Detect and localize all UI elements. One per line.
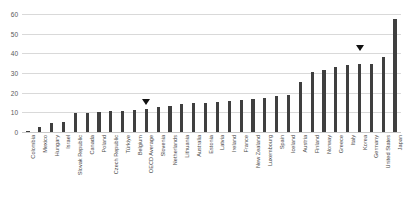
bar-slot	[200, 14, 212, 132]
bar-slot	[377, 14, 389, 132]
bar	[192, 103, 195, 132]
bar	[346, 65, 349, 132]
bar-slot	[354, 14, 366, 132]
bar	[275, 96, 278, 132]
bar-slot	[69, 14, 81, 132]
y-axis-tick-label: 30	[11, 70, 18, 77]
bar-series	[22, 14, 401, 132]
bar	[334, 67, 337, 132]
bar-slot	[117, 14, 129, 132]
bar-slot	[365, 14, 377, 132]
bar	[311, 72, 314, 132]
bar	[62, 122, 65, 132]
gridline-0: 0	[22, 132, 401, 133]
bar-slot	[58, 14, 70, 132]
bar	[157, 107, 160, 132]
x-axis-label-slot: Mexico	[34, 134, 46, 196]
y-axis-tick-label: 20	[11, 89, 18, 96]
x-axis-label-slot: OECD Average	[140, 134, 152, 196]
x-axis-label-slot: Canada	[81, 134, 93, 196]
bar-slot	[247, 14, 259, 132]
bar-slot	[212, 14, 224, 132]
x-axis-label-slot: Iceland	[283, 134, 295, 196]
bar-slot	[129, 14, 141, 132]
x-axis-label-slot: Lithuania	[176, 134, 188, 196]
bar	[370, 64, 373, 132]
x-axis-label-slot: Finland	[306, 134, 318, 196]
bar	[50, 123, 53, 132]
x-axis-label-slot: Luxembourg	[259, 134, 271, 196]
bar	[382, 57, 385, 132]
bar	[263, 98, 266, 132]
bar-slot	[223, 14, 235, 132]
x-axis-label-slot: Spain	[271, 134, 283, 196]
x-axis-label-slot: France	[235, 134, 247, 196]
bar-slot	[152, 14, 164, 132]
x-axis-label-slot: Netherlands	[164, 134, 176, 196]
bar-slot	[259, 14, 271, 132]
x-axis-label-slot: Korea	[354, 134, 366, 196]
x-axis-tick-label: Japan	[398, 135, 404, 150]
plot-area: 6050403020100	[22, 14, 401, 132]
x-axis-label-slot: Hungary	[46, 134, 58, 196]
x-axis-label-slot: United States	[377, 134, 389, 196]
bar-slot	[140, 14, 152, 132]
y-axis-tick-label: 0	[14, 129, 18, 136]
x-axis-label-slot: Germany	[365, 134, 377, 196]
triangle-marker-icon	[356, 45, 364, 51]
bar	[216, 102, 219, 132]
bar-slot	[342, 14, 354, 132]
x-axis-label-slot: Latvia	[212, 134, 224, 196]
x-axis-label-slot: Slovak Republic	[69, 134, 81, 196]
bar	[228, 101, 231, 132]
bar	[358, 64, 361, 132]
x-axis-label-slot: Belgium	[129, 134, 141, 196]
bar-slot	[283, 14, 295, 132]
bar-slot	[188, 14, 200, 132]
bar-slot	[22, 14, 34, 132]
y-axis-tick-label: 40	[11, 50, 18, 57]
bar-chart: 6050403020100 ColombiaMexicoHungaryIsrae…	[0, 0, 406, 197]
y-axis-tick-label: 50	[11, 30, 18, 37]
bar-slot	[164, 14, 176, 132]
x-axis-label-slot: Ireland	[223, 134, 235, 196]
triangle-marker-icon	[142, 99, 150, 105]
bar-slot	[389, 14, 401, 132]
x-axis-label-slot: Norway	[318, 134, 330, 196]
y-axis-tick-label: 60	[11, 11, 18, 18]
bar	[393, 19, 396, 132]
bar	[97, 112, 100, 132]
bar	[240, 100, 243, 132]
bar	[287, 95, 290, 132]
x-axis-label-slot: Türkiye	[117, 134, 129, 196]
x-axis-label-slot: Slovenia	[152, 134, 164, 196]
bar	[168, 106, 171, 132]
bar-slot	[81, 14, 93, 132]
bar-slot	[105, 14, 117, 132]
bar	[86, 113, 89, 132]
y-axis-tick-label: 10	[11, 109, 18, 116]
bar-slot	[46, 14, 58, 132]
x-axis-label-slot: Poland	[93, 134, 105, 196]
x-axis-label-slot: Colombia	[22, 134, 34, 196]
bar-slot	[306, 14, 318, 132]
bar	[180, 104, 183, 132]
bar	[251, 99, 254, 132]
x-axis-label-slot: Australia	[188, 134, 200, 196]
bar-slot	[34, 14, 46, 132]
x-axis-label-slot: New Zealand	[247, 134, 259, 196]
bar	[204, 103, 207, 132]
bar-slot	[271, 14, 283, 132]
bar-slot	[93, 14, 105, 132]
x-axis-label-slot: Japan	[389, 134, 401, 196]
x-axis-label-slot: Austria	[294, 134, 306, 196]
bar-slot	[318, 14, 330, 132]
bar-slot	[176, 14, 188, 132]
bar-slot	[294, 14, 306, 132]
x-axis-label-slot: Greece	[330, 134, 342, 196]
x-axis-labels: ColombiaMexicoHungaryIsraelSlovak Republ…	[22, 134, 401, 196]
bar	[299, 82, 302, 132]
bar	[74, 113, 77, 132]
x-axis-label-slot: Estonia	[200, 134, 212, 196]
x-axis-label-slot: Czech Republic	[105, 134, 117, 196]
